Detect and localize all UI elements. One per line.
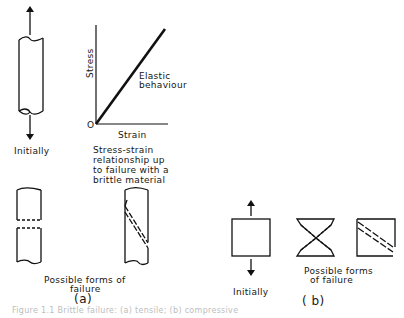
failure-form-diagonal-wedge	[357, 219, 395, 256]
chart-caption-line4: brittle material	[93, 175, 165, 185]
panel-label-a: (a)	[74, 294, 92, 304]
y-axis-label: Stress	[85, 54, 95, 78]
panel-label-b: ( b)	[302, 296, 325, 306]
chart-caption-line3: to failure with a	[93, 165, 169, 175]
chart-caption-line2: relationship up	[93, 155, 165, 165]
elastic-label-line2: behaviour	[139, 80, 187, 90]
figure-caption: Figure 1.1 Brittle failure: (a) tensile;…	[12, 306, 238, 315]
failure-form-transverse	[17, 188, 41, 264]
initial-specimen-cylinder	[19, 9, 43, 137]
failure-form-diagonal-shear	[125, 188, 148, 265]
initial-specimen-cube	[232, 203, 270, 273]
failure-forms-label-b-line2: of failure	[310, 275, 353, 285]
failure-form-hourglass	[297, 219, 334, 256]
initially-label-b: Initially	[233, 287, 268, 297]
origin-label: O	[87, 120, 94, 130]
chart-caption-line1: Stress-strain	[93, 145, 153, 155]
x-axis-label: Strain	[118, 130, 146, 140]
initially-label-a: Initially	[14, 146, 49, 156]
